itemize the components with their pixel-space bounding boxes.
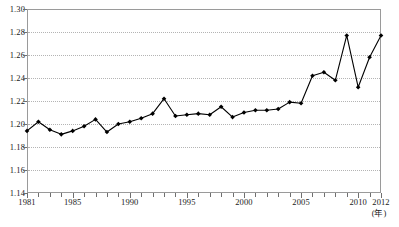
y-axis-tick-mark	[23, 55, 27, 56]
x-axis-tick-mark	[153, 193, 154, 197]
x-axis-tick-mark	[38, 193, 39, 197]
y-axis-tick-label: 1.14	[0, 189, 25, 198]
x-axis-tick-mark	[233, 193, 234, 197]
x-axis-tick-mark	[175, 193, 176, 197]
y-axis-tick-label: 1.16	[0, 166, 25, 175]
y-axis-tick-label: 1.24	[0, 74, 25, 83]
x-axis-tick-mark	[255, 193, 256, 197]
x-axis-tick-label: 2012	[372, 198, 389, 207]
x-axis-tick-mark	[61, 193, 62, 197]
x-axis-tick-mark	[118, 193, 119, 197]
x-axis-tick-mark	[370, 193, 371, 197]
y-axis-tick-label: 1.30	[0, 5, 25, 14]
y-axis-tick-mark	[23, 101, 27, 102]
gridline	[28, 32, 380, 33]
gridline	[28, 124, 380, 125]
plot-area	[27, 9, 381, 193]
y-axis-tick-mark	[23, 32, 27, 33]
x-axis-tick-mark	[50, 193, 51, 197]
y-axis-tick-mark	[23, 170, 27, 171]
x-axis-tick-mark	[278, 193, 279, 197]
x-axis-tick-label: 2010	[349, 198, 366, 207]
x-axis-tick-mark	[164, 193, 165, 197]
x-axis-tick-mark	[347, 193, 348, 197]
gridline	[28, 147, 380, 148]
y-axis-tick-label: 1.22	[0, 97, 25, 106]
x-axis-tick-mark	[96, 193, 97, 197]
x-axis-tick-mark	[290, 193, 291, 197]
x-axis-tick-mark	[335, 193, 336, 197]
y-axis-tick-mark	[23, 124, 27, 125]
chart-container: (年) 1.301.281.261.241.221.201.181.161.14…	[0, 0, 399, 227]
x-axis-tick-mark	[324, 193, 325, 197]
x-axis-tick-mark	[267, 193, 268, 197]
x-axis-tick-label: 2005	[292, 198, 309, 207]
gridline	[28, 55, 380, 56]
y-axis-tick-label: 1.18	[0, 143, 25, 152]
y-axis-tick-label: 1.26	[0, 51, 25, 60]
x-axis-tick-mark	[198, 193, 199, 197]
x-axis-tick-mark	[107, 193, 108, 197]
x-axis-tick-mark	[312, 193, 313, 197]
y-axis-tick-label: 1.28	[0, 28, 25, 37]
y-axis-tick-mark	[23, 78, 27, 79]
x-axis-tick-mark	[84, 193, 85, 197]
y-axis-tick-mark	[23, 9, 27, 10]
gridline	[28, 170, 380, 171]
y-axis-tick-label: 1.20	[0, 120, 25, 129]
gridline	[28, 101, 380, 102]
y-axis-tick-mark	[23, 147, 27, 148]
x-axis-tick-label: 1990	[121, 198, 138, 207]
x-axis-tick-mark	[221, 193, 222, 197]
x-axis-tick-mark	[141, 193, 142, 197]
x-axis-tick-mark	[210, 193, 211, 197]
x-axis-tick-label: 2000	[235, 198, 252, 207]
x-axis-tick-label: 1981	[18, 198, 35, 207]
x-axis-tick-label: 1985	[64, 198, 81, 207]
x-axis-tick-label: 1995	[178, 198, 195, 207]
x-axis-unit-label: (年)	[372, 209, 387, 218]
gridline	[28, 78, 380, 79]
